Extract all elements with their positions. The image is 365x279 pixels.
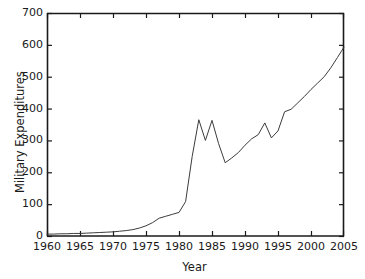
axes-frame: [47, 13, 344, 237]
y-tick-label-100: 100: [22, 198, 43, 209]
chart-canvas: [0, 0, 365, 279]
x-axis-title: Year: [0, 260, 365, 274]
x-tick-label-2005: 2005: [324, 241, 364, 252]
y-axis-title: Military Expenditures: [13, 71, 27, 193]
chart-figure: 0100200300400500600700 19601965197019751…: [0, 0, 365, 279]
tick-marks: [47, 13, 344, 237]
y-tick-label-700: 700: [22, 7, 43, 18]
x-axis-title-text: Year: [182, 260, 206, 274]
data-series-line: [47, 47, 344, 234]
y-tick-label-600: 600: [22, 39, 43, 50]
